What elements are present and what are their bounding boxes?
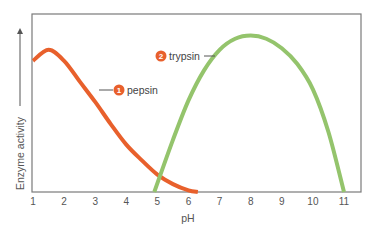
x-tick-label: 9: [279, 196, 285, 207]
trypsin-label: trypsin: [169, 50, 200, 62]
x-tick-label: 4: [124, 196, 130, 207]
pepsin-label: pepsin: [127, 84, 158, 96]
x-tick-label: 5: [155, 196, 161, 207]
x-axis-label: pH: [181, 212, 194, 224]
x-tick-label: 10: [307, 196, 319, 207]
arrow-up-icon: [17, 28, 23, 34]
x-tick-label: 1: [30, 196, 36, 207]
x-tick-label: 2: [61, 196, 67, 207]
pepsin-annotation: 1 pepsin: [99, 84, 158, 96]
x-tick-label: 7: [217, 196, 223, 207]
x-tick-label: 8: [248, 196, 254, 207]
enzyme-activity-chart: 1234567891011 pH Enzyme activity 1 pepsi…: [0, 0, 368, 235]
x-tick-label: 11: [339, 196, 350, 207]
x-tick-label: 3: [92, 196, 98, 207]
trypsin-badge-number: 2: [159, 52, 164, 61]
x-tick-label: 6: [186, 196, 192, 207]
pepsin-curve: [33, 50, 198, 192]
y-axis-label-group: Enzyme activity: [14, 28, 26, 190]
trypsin-annotation: 2 trypsin: [156, 50, 216, 62]
pepsin-badge-number: 1: [117, 86, 122, 95]
plot-frame: [32, 14, 361, 192]
y-axis-label: Enzyme activity: [14, 116, 26, 190]
x-axis-ticks: 1234567891011: [30, 196, 349, 207]
